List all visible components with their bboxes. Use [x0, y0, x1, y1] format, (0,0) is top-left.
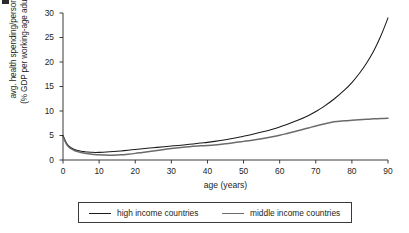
legend-item-high-income: high income countries — [89, 207, 198, 219]
legend-label-high-income: high income countries — [117, 208, 198, 218]
plot-area — [0, 0, 409, 233]
series-lines — [63, 18, 388, 155]
legend-item-middle-income: middle income countries — [222, 207, 340, 219]
legend-swatch-middle-income — [222, 213, 244, 214]
chart-figure: avg. health spending/person (% GDP per w… — [0, 0, 409, 233]
axis-tick-marks — [60, 13, 389, 164]
legend-label-middle-income: middle income countries — [250, 208, 340, 218]
legend: high income countries middle income coun… — [78, 202, 352, 223]
axis-lines — [63, 13, 388, 160]
legend-swatch-high-income — [89, 213, 111, 214]
